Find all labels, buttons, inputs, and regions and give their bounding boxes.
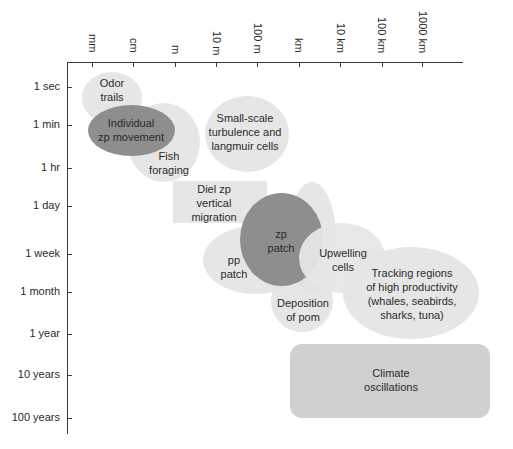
x-tick: [92, 62, 93, 67]
y-tick: [67, 125, 72, 126]
label-zp-patch: zppatch: [268, 227, 295, 255]
y-tick: [67, 254, 72, 255]
label-pp-patch: pppatch: [221, 253, 248, 281]
label-diel-vertical-migration: Diel zpverticalmigration: [191, 182, 236, 224]
x-tick: [133, 62, 134, 67]
label-odor-trails: Odortrails: [100, 76, 124, 104]
y-tick-label: 100 years: [2, 411, 60, 423]
label-individual-zp-movement: Individualzp movement: [98, 116, 164, 144]
label-deposition-of-pom: Depositionof pom: [277, 296, 329, 324]
y-tick-label: 1 month: [2, 285, 60, 297]
x-tick-label: 10 m: [211, 31, 223, 55]
y-tick: [67, 334, 72, 335]
label-tracking-high-productivity: Tracking regionsof high productivity(wha…: [366, 266, 458, 322]
label-fish-foraging: Fishforaging: [149, 149, 189, 177]
y-tick: [67, 87, 72, 88]
x-tick-label: 100 m: [252, 23, 264, 54]
label-climate-oscillations: Climateoscillations: [364, 366, 418, 394]
x-tick-label: m: [170, 45, 182, 54]
y-axis-line: [67, 62, 68, 434]
y-tick-label: 1 hr: [2, 161, 60, 173]
y-tick: [67, 375, 72, 376]
label-small-scale-turbulence: Small-scaleturbulence andlangmuir cells: [209, 111, 282, 153]
x-tick: [216, 62, 217, 67]
x-tick: [340, 62, 341, 67]
x-tick: [422, 62, 423, 67]
x-tick: [175, 62, 176, 67]
x-tick-label: 1000 km: [417, 11, 429, 53]
y-tick-label: 1 day: [2, 199, 60, 211]
y-tick-label: 1 week: [2, 247, 60, 259]
y-tick: [67, 168, 72, 169]
label-upwelling-cells: Upwellingcells: [319, 246, 367, 274]
x-tick: [299, 62, 300, 67]
x-tick-label: cm: [128, 38, 140, 53]
x-tick-label: 10 km: [335, 23, 347, 53]
y-tick-label: 1 sec: [2, 80, 60, 92]
y-tick: [67, 206, 72, 207]
x-tick: [382, 62, 383, 67]
x-tick-label: 100 km: [376, 17, 388, 53]
y-tick: [67, 292, 72, 293]
x-tick-label: mm: [87, 34, 99, 52]
x-tick: [257, 62, 258, 67]
x-tick-label: km: [293, 38, 305, 53]
y-tick-label: 10 years: [2, 368, 60, 380]
y-tick-label: 1 min: [2, 118, 60, 130]
y-tick-label: 1 year: [2, 327, 60, 339]
y-tick: [67, 418, 72, 419]
x-axis-line: [67, 62, 463, 63]
